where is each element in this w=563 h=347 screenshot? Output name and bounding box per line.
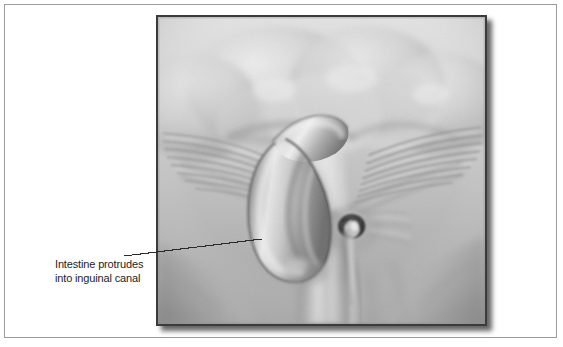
figure-root: Intestine protrudes into inguinal canal [0, 0, 563, 347]
illustration-vignette [158, 17, 485, 324]
callout-label-intestine-protrudes: Intestine protrudes into inguinal canal [55, 258, 173, 285]
medical-illustration-panel [156, 15, 487, 326]
anatomy-illustration [158, 17, 485, 324]
